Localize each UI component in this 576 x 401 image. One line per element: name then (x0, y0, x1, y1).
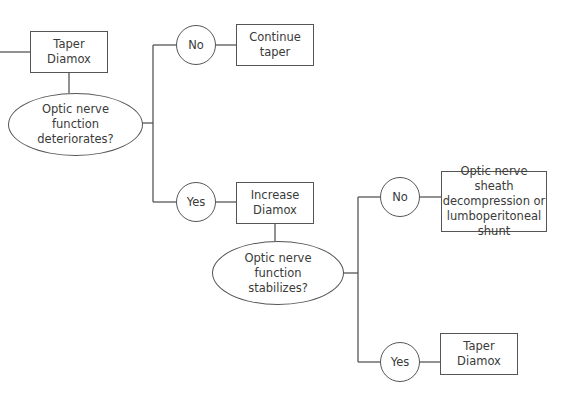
taper-diamox-label: Taper Diamox (47, 37, 91, 67)
continue-taper-box: Continue taper (236, 24, 314, 66)
surgery-label: Optic nerve sheath decompression or lumb… (442, 164, 546, 239)
no-branch-1-label: No (188, 38, 204, 53)
yes-branch-2-label: Yes (391, 355, 410, 370)
taper-diamox-box: Taper Diamox (30, 31, 108, 73)
taper-diamox-2-box: Taper Diamox (440, 333, 518, 375)
stabilizes-decision: Optic nerve function stabilizes? (212, 241, 344, 305)
increase-diamox-box: Increase Diamox (236, 182, 314, 224)
increase-diamox-label: Increase Diamox (251, 188, 300, 218)
deteriorates-decision: Optic nerve function deteriorates? (8, 93, 143, 156)
continue-taper-label: Continue taper (249, 30, 301, 60)
yes-branch-1: Yes (176, 182, 216, 222)
deteriorates-decision-label: Optic nerve function deteriorates? (37, 102, 113, 147)
stabilizes-decision-label: Optic nerve function stabilizes? (244, 251, 311, 296)
surgery-box: Optic nerve sheath decompression or lumb… (441, 171, 547, 232)
taper-diamox-2-label: Taper Diamox (457, 339, 501, 369)
yes-branch-1-label: Yes (187, 195, 206, 210)
no-branch-2-label: No (392, 190, 408, 205)
no-branch-1: No (176, 25, 216, 65)
no-branch-2: No (380, 177, 420, 217)
yes-branch-2: Yes (380, 342, 420, 382)
